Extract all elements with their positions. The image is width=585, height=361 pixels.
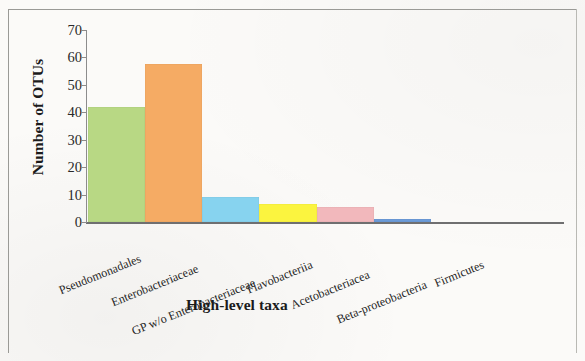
y-axis-tick-mark bbox=[81, 85, 87, 86]
y-axis-tick-mark bbox=[81, 112, 87, 113]
y-axis-tick-mark bbox=[81, 140, 87, 141]
y-axis-tick-mark bbox=[81, 167, 87, 168]
y-axis-tick-mark bbox=[81, 222, 87, 223]
x-axis-tick-labels: PseudomonadalesEnterobacteriaceaeGP w/o … bbox=[0, 0, 585, 361]
y-axis-tick-mark bbox=[81, 30, 87, 31]
y-axis-tick-mark bbox=[81, 57, 87, 58]
figure-bar-chart: Number of OTUs 010203040506070 Pseudomon… bbox=[0, 0, 585, 361]
y-axis-tick-mark bbox=[81, 195, 87, 196]
x-axis-title: High-level taxa bbox=[186, 296, 288, 314]
plot-area: Number of OTUs 010203040506070 Pseudomon… bbox=[0, 0, 585, 361]
x-axis-tick-label: Pseudomonadales bbox=[8, 252, 143, 316]
